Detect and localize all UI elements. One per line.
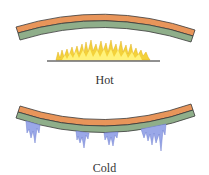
cold-strip (16, 104, 195, 133)
cold-label: Cold (0, 161, 209, 175)
hot-label: Hot (0, 73, 209, 88)
hot-strip (16, 14, 195, 42)
flames-icon (56, 40, 150, 60)
